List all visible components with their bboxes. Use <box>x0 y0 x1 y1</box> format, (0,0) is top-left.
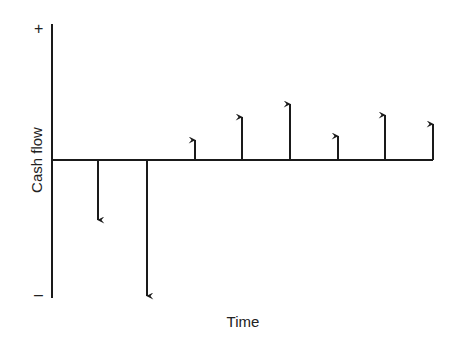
x-axis-label: Time <box>227 313 260 330</box>
cash-flow-arrows <box>98 104 433 296</box>
y-axis-label: Cash flow <box>28 127 45 193</box>
positive-marker: + <box>34 20 43 38</box>
cash-flow-diagram <box>0 0 455 344</box>
negative-marker: – <box>34 286 43 304</box>
